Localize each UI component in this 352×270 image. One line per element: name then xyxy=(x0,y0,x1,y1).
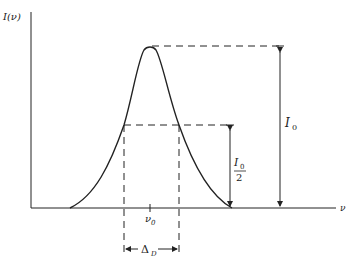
peak-label: I xyxy=(284,116,290,130)
x-axis-label: ν xyxy=(340,203,346,213)
half-max-numerator: I xyxy=(233,156,239,169)
half-max-numerator-sub: 0 xyxy=(240,163,244,171)
peak-label-sub: 0 xyxy=(292,123,297,132)
intensity-curve xyxy=(70,47,232,208)
center-label-sub: 0 xyxy=(151,219,156,227)
y-axis-label: I(ν) xyxy=(2,11,21,22)
line-profile-diagram: I(ν) ν ν 0 I 0 I 0 2 Δ D xyxy=(0,0,352,270)
half-max-denominator: 2 xyxy=(236,172,242,183)
width-label: Δ xyxy=(141,243,149,256)
width-label-sub: D xyxy=(150,250,157,258)
